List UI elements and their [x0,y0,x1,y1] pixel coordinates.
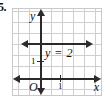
origin-label: O [29,81,38,93]
tick-mark-y-1 [37,61,44,62]
gridline-horizontal [13,89,101,90]
line-y-equals-2 [23,43,91,45]
line-arrow-left-icon [21,40,28,48]
gridline-horizontal [13,11,101,12]
y-axis-arrow-up-icon [37,9,45,16]
y-axis [40,11,42,93]
gridline-horizontal [13,33,101,34]
x-axis-arrow-left-icon [13,75,20,83]
x-axis-label: x [94,81,99,93]
gridline-horizontal [13,22,101,23]
tick-label-x-1: 1 [58,82,63,91]
y-axis-arrow-down-icon [37,88,45,95]
y-axis-label: y [30,10,35,22]
gridline-horizontal [13,66,101,67]
line-arrow-right-icon [86,40,93,48]
x-axis [15,78,99,80]
tick-label-y-1: 1 [31,57,36,66]
problem-number: 5. [0,1,6,13]
coordinate-plane-figure: y x O y = 2 1 1 [12,8,102,96]
equation-label: y = 2 [45,47,73,59]
